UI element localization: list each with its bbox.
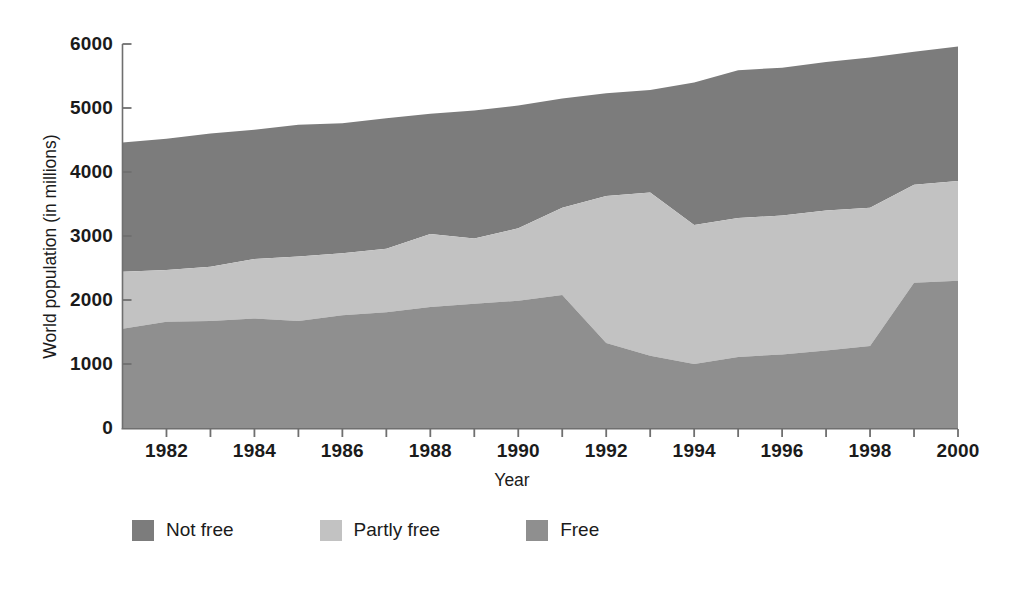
y-axis-tick-label: 5000	[14, 97, 113, 119]
x-axis-tick-label: 1992	[585, 440, 628, 462]
legend-swatch-icon	[320, 520, 342, 541]
y-axis-tick-label: 0	[14, 417, 113, 439]
x-axis-tick-label: 1990	[497, 440, 540, 462]
x-axis-tick-label: 2000	[936, 440, 979, 462]
x-axis-tick-labels: 1982198419861988199019921994199619982000	[0, 440, 1024, 468]
legend-label: Partly free	[354, 519, 441, 541]
x-axis-ticks	[166, 429, 958, 437]
legend-item-not-free[interactable]: Not free	[132, 519, 234, 541]
x-axis-tick-label: 1982	[145, 440, 188, 462]
y-axis-tick-labels: 0100020003000400050006000	[14, 0, 113, 597]
y-axis-tick-label: 2000	[14, 289, 113, 311]
y-axis-title: World population (in millions)	[40, 47, 61, 447]
legend-label: Free	[560, 519, 599, 541]
y-axis-tick-label: 6000	[14, 33, 113, 55]
chart-legend: Not freePartly freeFree	[132, 519, 599, 541]
y-axis-tick-label: 1000	[14, 353, 113, 375]
x-axis-title: Year	[0, 470, 1024, 491]
legend-item-free[interactable]: Free	[526, 519, 599, 541]
legend-swatch-icon	[526, 520, 548, 541]
x-axis-tick-label: 1986	[321, 440, 364, 462]
plot-area	[0, 0, 1024, 597]
x-axis-tick-label: 1994	[673, 440, 716, 462]
y-axis-tick-label: 3000	[14, 225, 113, 247]
legend-swatch-icon	[132, 520, 154, 541]
stacked-area-chart: 0100020003000400050006000 World populati…	[0, 0, 1024, 597]
area-layers	[123, 47, 959, 428]
legend-label: Not free	[166, 519, 234, 541]
x-axis-tick-label: 1988	[409, 440, 452, 462]
y-axis-tick-label: 4000	[14, 161, 113, 183]
legend-item-partly-free[interactable]: Partly free	[320, 519, 441, 541]
x-axis-tick-label: 1998	[849, 440, 892, 462]
x-axis-tick-label: 1996	[761, 440, 804, 462]
chart-page: 0100020003000400050006000 World populati…	[0, 0, 1024, 597]
x-axis-tick-label: 1984	[233, 440, 276, 462]
